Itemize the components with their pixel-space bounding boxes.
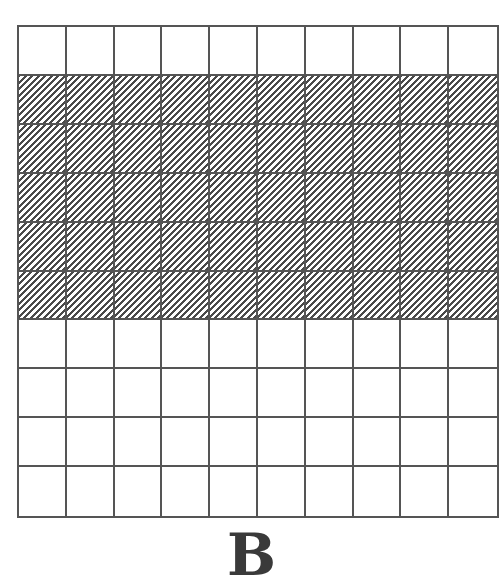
grid-cell — [162, 467, 210, 516]
grid-cell — [19, 418, 67, 467]
grid-cell — [258, 418, 306, 467]
grid-cell-shaded — [354, 174, 402, 223]
grid-cell — [354, 467, 402, 516]
grid-cell-shaded — [67, 76, 115, 125]
grid-cell — [258, 320, 306, 369]
grid-cell-shaded — [210, 76, 258, 125]
grid-cell — [354, 27, 402, 76]
grid-cell — [115, 369, 163, 418]
grid-cell-shaded — [162, 272, 210, 321]
grid-cell-shaded — [449, 174, 497, 223]
grid-cell-shaded — [67, 125, 115, 174]
grid-cell — [19, 320, 67, 369]
grid-cell — [210, 418, 258, 467]
grid-cell — [401, 418, 449, 467]
grid-cell — [449, 369, 497, 418]
grid-cell-shaded — [19, 125, 67, 174]
grid-cell-shaded — [401, 125, 449, 174]
grid-cell-shaded — [162, 223, 210, 272]
grid-cell-shaded — [354, 125, 402, 174]
grid-cell — [306, 418, 354, 467]
grid-cell-shaded — [449, 76, 497, 125]
grid-cell-shaded — [258, 125, 306, 174]
grid-cell-shaded — [210, 223, 258, 272]
grid-cell — [401, 369, 449, 418]
grid-cell — [67, 320, 115, 369]
grid-cell-shaded — [115, 76, 163, 125]
grid-cell-shaded — [115, 223, 163, 272]
grid-cell-shaded — [19, 76, 67, 125]
grid-cell — [210, 369, 258, 418]
grid-cell-shaded — [67, 272, 115, 321]
grid-cell-shaded — [401, 272, 449, 321]
grid-cell — [162, 418, 210, 467]
grid-cell — [19, 369, 67, 418]
grid-cell — [67, 467, 115, 516]
grid-cell-shaded — [258, 223, 306, 272]
grid-cell — [306, 320, 354, 369]
grid-cell-shaded — [115, 272, 163, 321]
grid-cell — [67, 418, 115, 467]
grid-cell-shaded — [210, 125, 258, 174]
grid-cell — [354, 418, 402, 467]
grid-cell-shaded — [306, 174, 354, 223]
grid-cell-shaded — [354, 76, 402, 125]
grid-cell — [306, 27, 354, 76]
grid-cell — [401, 320, 449, 369]
grid-cell-shaded — [401, 223, 449, 272]
grid-cell — [401, 27, 449, 76]
grid-cell-shaded — [19, 272, 67, 321]
hundred-grid — [17, 25, 499, 518]
grid-cell-shaded — [401, 76, 449, 125]
grid-cell — [162, 369, 210, 418]
grid-cell-shaded — [258, 272, 306, 321]
grid-cell — [115, 418, 163, 467]
grid-cell — [162, 320, 210, 369]
grid-cell-shaded — [162, 174, 210, 223]
grid-cell-shaded — [306, 76, 354, 125]
grid-cell-shaded — [210, 174, 258, 223]
grid-cell — [306, 467, 354, 516]
figure-label: B — [0, 526, 503, 579]
grid-cell-shaded — [449, 125, 497, 174]
grid-cell — [449, 467, 497, 516]
grid-cell — [19, 27, 67, 76]
grid-cell-shaded — [401, 174, 449, 223]
grid-cell — [449, 418, 497, 467]
grid-cell — [115, 320, 163, 369]
grid-cell-shaded — [67, 223, 115, 272]
grid-cell-shaded — [306, 125, 354, 174]
grid-cell-shaded — [354, 272, 402, 321]
grid-cell-shaded — [19, 223, 67, 272]
grid-cell-shaded — [115, 174, 163, 223]
grid-cell-shaded — [115, 125, 163, 174]
grid-cell — [162, 27, 210, 76]
grid-cell — [67, 369, 115, 418]
grid-cell — [258, 369, 306, 418]
grid-cell — [115, 467, 163, 516]
grid-cell-shaded — [449, 223, 497, 272]
grid-cell — [354, 320, 402, 369]
grid-cell — [401, 467, 449, 516]
grid-cell — [354, 369, 402, 418]
grid-cell-shaded — [258, 174, 306, 223]
grid-cell — [258, 27, 306, 76]
grid-cell-shaded — [306, 272, 354, 321]
grid-cell-shaded — [449, 272, 497, 321]
grid-cell — [210, 320, 258, 369]
grid-cell — [306, 369, 354, 418]
grid-cell — [115, 27, 163, 76]
grid-cell — [210, 27, 258, 76]
grid-cell-shaded — [19, 174, 67, 223]
grid-cell-shaded — [306, 223, 354, 272]
grid-cell — [449, 320, 497, 369]
grid-cell — [67, 27, 115, 76]
grid-cell — [258, 467, 306, 516]
grid-cell-shaded — [210, 272, 258, 321]
grid-cell-shaded — [162, 76, 210, 125]
grid-cell-shaded — [162, 125, 210, 174]
grid-cell-shaded — [258, 76, 306, 125]
grid-cell — [19, 467, 67, 516]
grid-cell-shaded — [67, 174, 115, 223]
grid-cell — [449, 27, 497, 76]
